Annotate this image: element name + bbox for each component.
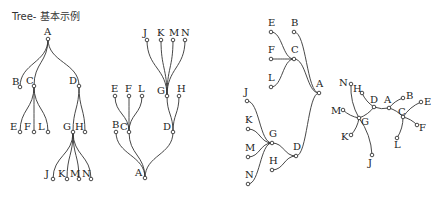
- node-label-H: H: [177, 83, 186, 94]
- node-label-B: B: [12, 76, 19, 87]
- node-K: [65, 177, 69, 181]
- node-K: [246, 127, 250, 131]
- edge-A-C: [34, 39, 48, 86]
- node-label-E: E: [424, 96, 431, 107]
- edge-C-L: [397, 117, 403, 138]
- node-label-H: H: [75, 121, 84, 132]
- node-label-C: C: [26, 75, 34, 86]
- node-label-M: M: [245, 142, 255, 153]
- node-A: [46, 37, 50, 41]
- node-label-A: A: [315, 78, 324, 89]
- tree-radial: ABCEFLDHNGMKJ: [331, 77, 431, 168]
- node-G: [165, 94, 169, 98]
- node-label-J: J: [44, 168, 49, 179]
- node-label-N: N: [181, 27, 190, 38]
- node-A: [317, 91, 321, 95]
- node-D: [372, 105, 376, 109]
- node-label-K: K: [245, 114, 253, 125]
- node-label-A: A: [383, 94, 392, 105]
- node-label-K: K: [157, 27, 165, 38]
- edge-G-K: [351, 118, 359, 135]
- node-label-D: D: [293, 141, 301, 152]
- node-F: [269, 57, 273, 61]
- node-N: [246, 182, 250, 186]
- node-N: [349, 82, 353, 86]
- node-label-H: H: [353, 83, 362, 94]
- node-D: [77, 84, 81, 88]
- node-label-K: K: [341, 131, 349, 142]
- node-J: [51, 177, 55, 181]
- node-label-J: J: [142, 27, 147, 38]
- node-label-H: H: [269, 155, 278, 166]
- node-label-J: J: [367, 157, 372, 168]
- tree-right-to-left: EBFCLAJKGMDHN: [243, 17, 324, 186]
- node-label-F: F: [125, 83, 132, 94]
- node-J: [245, 99, 249, 103]
- tree-bottom-up: JKMNEFLGHBCDA: [111, 27, 190, 180]
- edge-D-H: [173, 96, 179, 132]
- node-B: [401, 96, 405, 100]
- node-label-M: M: [70, 168, 80, 179]
- tree-diagrams: ABCDEFLGHJKMNJKMNEFLGHBCDAEBFCLAJKGMDHNA…: [0, 0, 445, 197]
- node-label-C: C: [120, 121, 128, 132]
- edge-A-D: [145, 132, 173, 178]
- node-B: [114, 130, 118, 134]
- node-F: [32, 130, 36, 134]
- node-label-D: D: [370, 94, 378, 105]
- node-D: [171, 130, 175, 134]
- node-M: [341, 108, 345, 112]
- node-L: [269, 85, 273, 89]
- node-label-L: L: [268, 72, 275, 83]
- node-G: [270, 141, 274, 145]
- edge-A-D: [374, 107, 389, 109]
- node-label-B: B: [291, 17, 298, 28]
- node-D: [294, 154, 298, 158]
- node-label-G: G: [157, 85, 165, 96]
- node-L: [46, 130, 50, 134]
- node-label-A: A: [134, 167, 143, 178]
- node-K: [349, 133, 353, 137]
- node-C: [127, 130, 131, 134]
- node-H: [83, 130, 87, 134]
- node-label-M: M: [169, 27, 179, 38]
- node-H: [270, 168, 274, 172]
- node-label-B: B: [112, 119, 119, 130]
- node-label-L: L: [138, 83, 145, 94]
- node-B: [292, 30, 296, 34]
- node-E: [269, 30, 273, 34]
- node-label-N: N: [339, 77, 348, 88]
- node-label-B: B: [406, 90, 413, 101]
- node-A: [143, 176, 147, 180]
- node-E: [419, 100, 423, 104]
- tree-top-down: ABCDEFLGHJKMN: [10, 26, 93, 181]
- node-label-L: L: [38, 121, 45, 132]
- node-label-L: L: [394, 139, 401, 150]
- node-F: [127, 94, 131, 98]
- node-label-G: G: [269, 128, 277, 139]
- node-N: [183, 38, 187, 42]
- node-label-C: C: [398, 106, 406, 117]
- node-A: [387, 106, 391, 110]
- node-label-J: J: [243, 86, 248, 97]
- node-J: [145, 38, 149, 42]
- node-label-G: G: [361, 116, 369, 127]
- node-E: [18, 130, 22, 134]
- node-K: [159, 38, 163, 42]
- node-label-F: F: [419, 122, 426, 133]
- node-label-G: G: [63, 121, 71, 132]
- node-label-D: D: [69, 75, 77, 86]
- node-C: [292, 57, 296, 61]
- edge-C-E: [403, 102, 421, 117]
- node-H: [177, 94, 181, 98]
- edge-C-L: [129, 96, 142, 132]
- node-label-D: D: [163, 121, 171, 132]
- node-label-C: C: [291, 44, 299, 55]
- node-label-N: N: [245, 169, 254, 180]
- node-L: [140, 94, 144, 98]
- node-label-F: F: [268, 44, 275, 55]
- node-E: [113, 94, 117, 98]
- node-label-K: K: [58, 168, 66, 179]
- node-label-E: E: [268, 17, 275, 28]
- node-M: [171, 38, 175, 42]
- node-label-N: N: [82, 168, 91, 179]
